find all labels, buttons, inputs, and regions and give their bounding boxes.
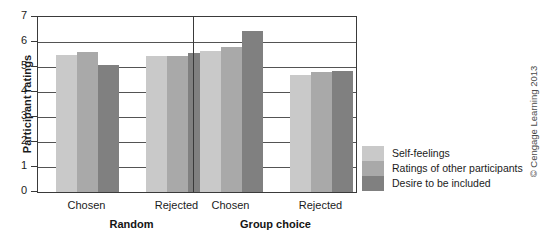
x-axis-category-label: Chosen [37,199,137,211]
bar [98,65,119,193]
plot-area [37,16,357,193]
y-axis-tick-label: 2 [0,135,27,146]
legend-swatch [362,176,384,191]
bar [290,75,311,193]
legend-label: Self-feelings [392,147,450,160]
bar [167,56,188,192]
bar [146,56,167,192]
y-axis-tick-label: 6 [0,35,27,46]
x-axis-group-label: Group choice [216,218,336,230]
copyright-credit: © Cengage Learning 2013 [528,52,539,192]
bar [221,47,242,192]
y-axis-tick-label: 0 [0,185,27,196]
legend-swatch [362,146,384,161]
group-divider-line [193,16,194,193]
bar [332,71,353,192]
x-axis-category-label: Rejected [271,199,371,211]
y-axis-tick-label: 1 [0,160,27,171]
y-axis-tick-label: 7 [0,10,27,21]
y-axis-tick-label: 3 [0,110,27,121]
legend-label: Ratings of other participants [392,162,523,175]
bar [242,31,263,192]
x-axis-category-label: Chosen [181,199,281,211]
y-axis-tick-label: 5 [0,60,27,71]
bar [311,72,332,192]
y-axis-tick-label: 4 [0,85,27,96]
x-axis-group-label: Random [72,218,192,230]
gridline [38,42,356,43]
bar [77,52,98,192]
bar [200,51,221,192]
legend-label: Desire to be included [392,177,491,190]
bar [56,55,77,193]
figure-container: Participant ratings 01234567 ChosenRejec… [0,0,553,248]
legend-swatch [362,161,384,176]
